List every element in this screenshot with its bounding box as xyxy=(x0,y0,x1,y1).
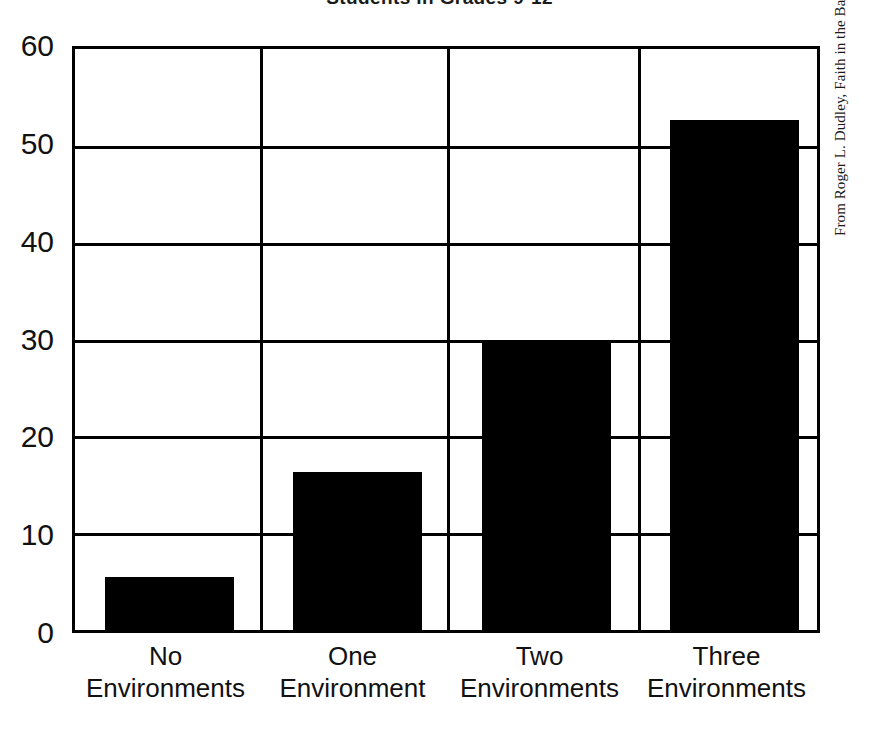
bar-three-environments xyxy=(670,120,799,630)
x-category-one-environment: One Environment xyxy=(259,641,446,731)
plot-area xyxy=(72,46,820,633)
x-category-no-environments: No Environments xyxy=(72,641,259,731)
chart-title: Students in Grades 9-12 xyxy=(0,0,879,7)
x-category-line1: Three xyxy=(633,641,820,673)
x-category-line1: One xyxy=(259,641,446,673)
y-tick-label-0: 0 xyxy=(37,618,54,648)
bars-layer xyxy=(75,49,817,630)
x-category-line1: No xyxy=(72,641,259,673)
x-category-line2: Environments xyxy=(446,673,633,705)
y-tick-label-40: 40 xyxy=(21,227,54,257)
x-category-line2: Environment xyxy=(259,673,446,705)
y-tick-label-20: 20 xyxy=(21,422,54,452)
y-tick-label-60: 60 xyxy=(21,31,54,61)
y-tick-label-30: 30 xyxy=(21,325,54,355)
y-tick-label-50: 50 xyxy=(21,129,54,159)
x-category-line2: Environments xyxy=(633,673,820,705)
x-category-line2: Environments xyxy=(72,673,259,705)
bar-two-environments xyxy=(482,340,611,631)
x-category-two-environments: Two Environments xyxy=(446,641,633,731)
x-axis: No Environments One Environment Two Envi… xyxy=(72,641,820,731)
source-credit: From Roger L. Dudley, Faith in the Balan… xyxy=(832,0,849,236)
x-category-three-environments: Three Environments xyxy=(633,641,820,731)
bar-no-environments xyxy=(105,577,234,630)
y-axis: 0 10 20 30 40 50 60 xyxy=(0,46,66,633)
x-category-line1: Two xyxy=(446,641,633,673)
y-tick-label-10: 10 xyxy=(21,520,54,550)
bar-one-environment xyxy=(293,472,422,630)
